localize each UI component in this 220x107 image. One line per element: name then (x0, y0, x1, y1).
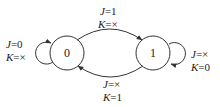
svg-text:K=0: K=0 (190, 61, 211, 73)
state-1: 1 (136, 36, 170, 70)
svg-text:J=1: J=1 (100, 5, 117, 17)
svg-text:K=1: K=1 (102, 91, 122, 103)
svg-text:J=×: J=× (191, 48, 208, 60)
label-self-loop-1: J=× K=0 (190, 48, 211, 73)
state-1-label: 1 (150, 46, 156, 60)
state-diagram: 0 1 J=0 K=× J=1 K=× J=× K=0 (0, 0, 220, 107)
transition-1-to-0-arrow (78, 66, 143, 77)
state-0: 0 (50, 36, 84, 70)
label-transition-0-to-1: J=1 K=× (97, 5, 118, 30)
state-0-label: 0 (64, 46, 70, 60)
label-transition-1-to-0: J=× K=1 (102, 78, 122, 103)
svg-text:J=0: J=0 (6, 38, 23, 50)
self-loop-1-arrow (169, 43, 185, 65)
label-self-loop-0: J=0 K=× (5, 38, 26, 63)
svg-text:K=×: K=× (5, 51, 26, 63)
svg-text:K=×: K=× (97, 18, 118, 30)
svg-text:J=×: J=× (103, 78, 120, 90)
transition-0-to-1-arrow (77, 29, 142, 40)
